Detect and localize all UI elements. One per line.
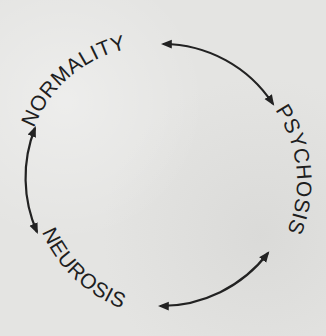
arrow-neurosis-normality bbox=[26, 128, 37, 232]
node-neurosis: NEUROSIS bbox=[38, 224, 129, 313]
arrow-normality-psychosis bbox=[163, 44, 273, 104]
node-psychosis: PSYCHOSIS bbox=[272, 100, 317, 238]
cycle-diagram: NORMALITY PSYCHOSIS NEUROSIS bbox=[0, 0, 326, 336]
node-normality: NORMALITY bbox=[16, 30, 127, 129]
arrow-psychosis-neurosis bbox=[160, 253, 268, 306]
diagram-svg: NORMALITY PSYCHOSIS NEUROSIS bbox=[0, 0, 326, 336]
